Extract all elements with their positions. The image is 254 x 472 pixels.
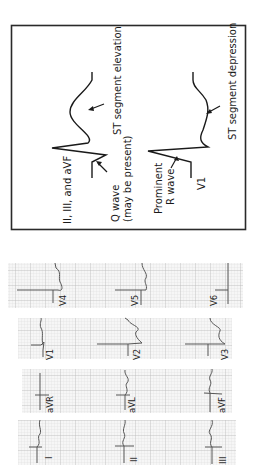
inferior-leads-label: II, III, and aVF [62, 156, 73, 224]
v1-diagram-label: V1 [196, 177, 207, 190]
q-wave-label-line1: Q wave [110, 185, 121, 222]
lead-label-v3: V3 [220, 349, 230, 360]
lead-label-v4: V4 [58, 295, 68, 306]
ecg-grid [8, 263, 243, 308]
lead-label-v1: V1 [45, 349, 55, 360]
prominent-r-label-line1: Prominent [153, 163, 164, 214]
st-depression-label: ST segment depression [227, 23, 238, 140]
ecg-row-avr-avf: aVR aVL aVF [22, 369, 232, 413]
lead-label-v6: V6 [209, 295, 219, 306]
lead-label-v5: V5 [130, 295, 140, 306]
ecg-row-i-iii: I II III [18, 420, 236, 465]
lead-label-ii: II [129, 457, 139, 462]
lead-label-i: I [44, 456, 54, 459]
q-wave-label-line2: (may be present) [122, 135, 133, 222]
lead-label-avr: aVR [45, 396, 55, 413]
st-elevation-label: ST segment elevation [112, 26, 123, 135]
lead-label-iii: III [218, 456, 228, 464]
lead-label-v2: V2 [132, 349, 142, 360]
ecg-row-v4-v6: V4 V5 V6 [8, 263, 243, 308]
lead-label-avl: aVL [127, 397, 137, 413]
prominent-r-label-line2: R wave [165, 168, 176, 205]
ecg-row-v1-v3: V1 V2 V3 [18, 318, 232, 360]
lead-label-avf: aVF [217, 397, 227, 413]
diagram-panel: II, III, and aVF Q wave (may be present)… [12, 23, 246, 230]
figure: II, III, and aVF Q wave (may be present)… [0, 0, 254, 472]
